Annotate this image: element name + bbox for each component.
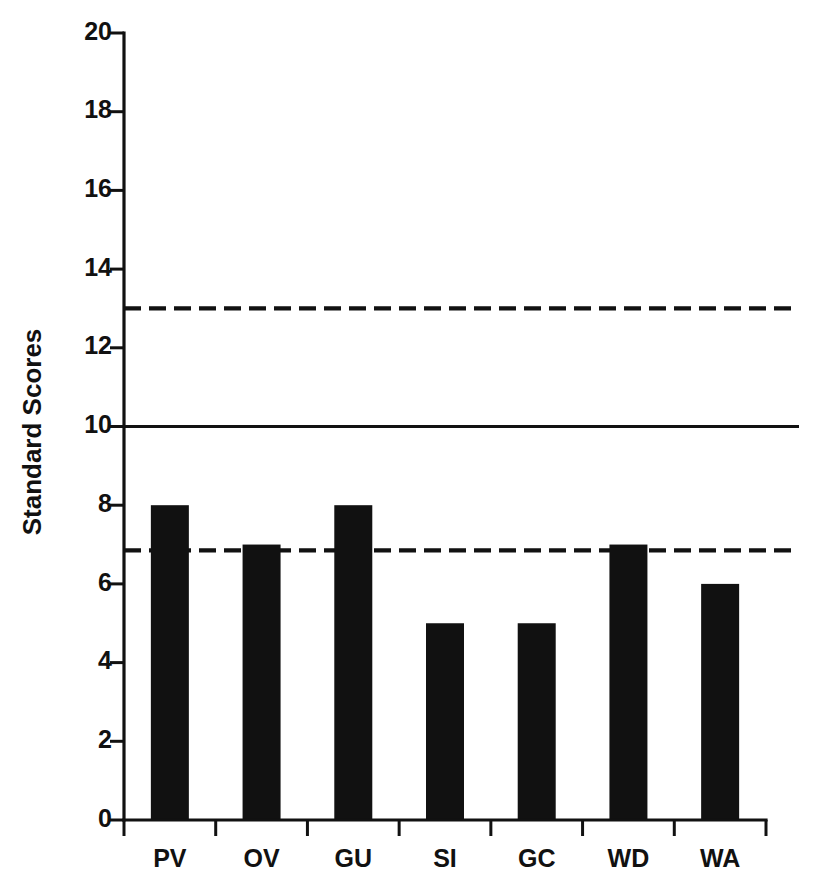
bar-chart-figure: Standard Scores 0 2 4 6 8 10 12 14 16 18…	[0, 0, 815, 881]
y-tick-label-6: 6	[98, 568, 112, 596]
bar-wd	[609, 545, 647, 820]
bar-wa	[701, 584, 739, 820]
y-tick-label-18: 18	[84, 95, 112, 123]
bar-gu	[334, 505, 372, 820]
y-tick-label-16: 16	[84, 174, 112, 202]
y-axis-ticks	[110, 33, 124, 820]
y-axis-tick-labels: 0 2 4 6 8 10 12 14 16 18 20	[84, 17, 112, 832]
x-axis-tick-labels: PV OV GU SI GC WD WA	[153, 844, 740, 872]
x-tick-label-gu: GU	[335, 844, 373, 872]
y-tick-label-8: 8	[98, 489, 112, 517]
x-tick-label-ov: OV	[244, 844, 280, 872]
x-tick-label-wa: WA	[700, 844, 740, 872]
x-tick-label-gc: GC	[518, 844, 556, 872]
chart-canvas: Standard Scores 0 2 4 6 8 10 12 14 16 18…	[0, 0, 815, 881]
x-tick-label-si: SI	[433, 844, 457, 872]
bar-si	[426, 623, 464, 820]
y-tick-label-2: 2	[98, 725, 112, 753]
bar-gc	[518, 623, 556, 820]
y-tick-label-12: 12	[84, 331, 112, 359]
y-tick-label-10: 10	[84, 410, 112, 438]
y-tick-label-0: 0	[98, 804, 112, 832]
y-axis-title: Standard Scores	[17, 329, 47, 536]
y-tick-label-4: 4	[98, 646, 112, 674]
y-tick-label-20: 20	[84, 17, 112, 45]
bar-ov	[243, 545, 281, 820]
x-axis-ticks	[124, 820, 766, 836]
y-tick-label-14: 14	[84, 253, 112, 281]
x-tick-label-pv: PV	[153, 844, 187, 872]
bar-pv	[151, 505, 189, 820]
x-tick-label-wd: WD	[608, 844, 650, 872]
